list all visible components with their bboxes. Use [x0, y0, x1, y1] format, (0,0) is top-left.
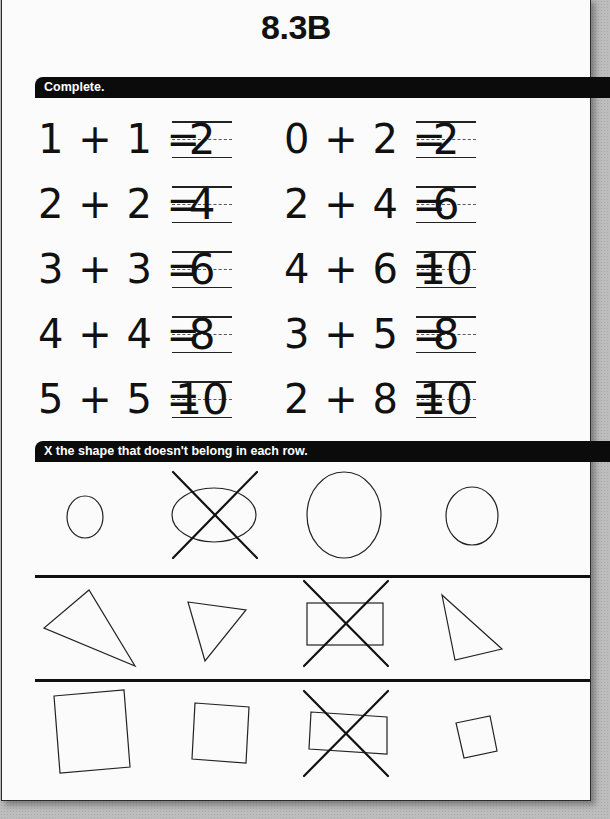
shape-triangle[interactable] — [44, 590, 135, 666]
shape-circle[interactable] — [67, 496, 103, 538]
shapes-canvas — [2, 0, 590, 800]
shape-circle[interactable] — [307, 472, 381, 558]
shape-square[interactable] — [192, 703, 249, 763]
shape-square[interactable] — [456, 716, 497, 758]
worksheet-page: 8.3B Complete. 1 + 1 = 2 0 + 2 = 2 2 + 2… — [1, 0, 591, 801]
shape-triangle[interactable] — [188, 602, 246, 661]
shape-square[interactable] — [54, 690, 130, 773]
shape-triangle[interactable] — [442, 595, 502, 660]
cross-marks — [173, 472, 388, 776]
shape-circle[interactable] — [446, 487, 498, 545]
